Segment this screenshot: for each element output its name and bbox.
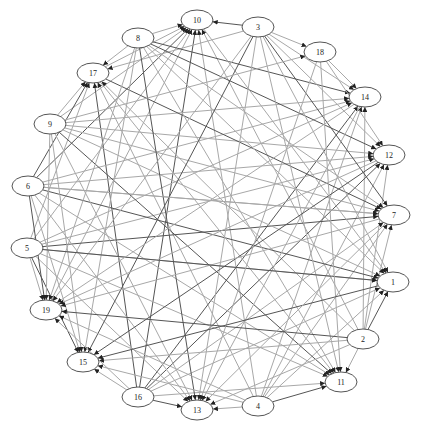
edge-6-to-11 [39, 193, 329, 375]
node-label: 3 [256, 23, 260, 32]
edge-2-to-11 [346, 349, 358, 373]
edge-5-to-13 [36, 256, 188, 401]
edge-8-to-17 [103, 46, 128, 65]
node-label: 12 [385, 151, 393, 160]
node-17[interactable]: 17 [77, 63, 109, 83]
node-label: 7 [392, 211, 396, 220]
edge-7-to-13 [206, 224, 386, 402]
edge-16-to-12 [147, 163, 381, 388]
edge-9-to-19 [46, 134, 50, 300]
node-label: 4 [256, 402, 260, 411]
node-2[interactable]: 2 [347, 329, 379, 349]
node-18[interactable]: 18 [304, 42, 336, 62]
edge-3-to-1 [263, 37, 388, 273]
edge-16-to-10 [140, 30, 196, 387]
edge-3-to-10 [213, 22, 243, 25]
node-14[interactable]: 14 [349, 87, 381, 107]
node-3[interactable]: 3 [242, 17, 274, 37]
edge-5-to-14 [40, 103, 352, 242]
node-label: 6 [26, 182, 30, 191]
node-label: 5 [25, 244, 29, 253]
edge-18-to-14 [329, 61, 357, 89]
node-label: 13 [193, 406, 201, 415]
node-label: 14 [361, 93, 369, 102]
node-8[interactable]: 8 [122, 28, 154, 48]
node-label: 1 [391, 278, 395, 287]
edge-2-to-19 [62, 311, 347, 337]
edge-8-to-19 [49, 48, 134, 300]
node-10[interactable]: 10 [181, 10, 213, 30]
node-7[interactable]: 7 [378, 205, 410, 225]
node-15[interactable]: 15 [67, 352, 99, 372]
edge-8-to-10 [152, 24, 182, 33]
node-label: 9 [48, 120, 52, 129]
node-label: 16 [134, 393, 142, 402]
node-12[interactable]: 12 [373, 145, 405, 165]
edge-9-to-12 [66, 125, 373, 153]
node-label: 2 [361, 335, 365, 344]
node-16[interactable]: 16 [122, 387, 154, 407]
edge-5-to-17 [31, 83, 90, 239]
edge-4-to-15 [98, 366, 243, 403]
edge-4-to-11 [273, 386, 327, 402]
edge-8-to-11 [144, 47, 336, 372]
node-4[interactable]: 4 [242, 396, 274, 416]
node-label: 17 [89, 69, 97, 78]
edge-16-to-13 [153, 400, 182, 406]
edge-4-to-13 [213, 407, 242, 409]
edge-2-to-1 [368, 292, 388, 330]
node-label: 10 [193, 16, 201, 25]
node-5[interactable]: 5 [11, 238, 43, 258]
node-13[interactable]: 13 [181, 400, 213, 420]
node-label: 15 [79, 358, 87, 367]
edge-8-to-13 [140, 48, 196, 400]
node-9[interactable]: 9 [34, 114, 66, 134]
node-label: 8 [136, 34, 140, 43]
graph-canvas: 10318141271211413161519569178 [0, 0, 429, 430]
node-19[interactable]: 19 [30, 300, 62, 320]
edge-3-to-15 [88, 37, 253, 353]
node-label: 19 [42, 306, 50, 315]
node-6[interactable]: 6 [12, 176, 44, 196]
node-11[interactable]: 11 [325, 372, 357, 392]
node-1[interactable]: 1 [377, 272, 409, 292]
node-label: 18 [316, 48, 324, 57]
node-label: 11 [337, 378, 345, 387]
